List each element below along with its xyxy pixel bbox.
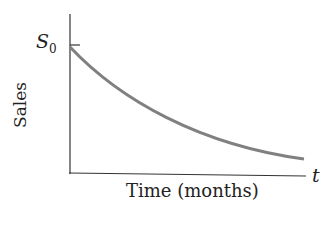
- s0-label: S0: [36, 30, 57, 56]
- y-axis-label: Sales: [10, 88, 30, 128]
- t-label: t: [312, 164, 320, 186]
- x-axis: [69, 173, 306, 176]
- decay-curve: [70, 47, 304, 159]
- x-axis-label: Time (months): [126, 180, 259, 201]
